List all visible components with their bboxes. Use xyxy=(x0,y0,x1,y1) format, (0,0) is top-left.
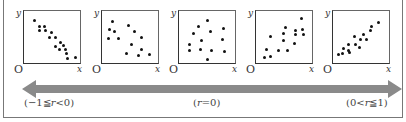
range-negative-pre: (−1≦ xyxy=(24,97,51,108)
y-axis-label: y xyxy=(16,9,21,18)
origin-label: O xyxy=(14,64,23,75)
data-point xyxy=(107,37,110,40)
origin-label: O xyxy=(92,64,101,75)
scatter-plot-weak-positive xyxy=(255,10,313,64)
data-point xyxy=(188,49,191,52)
data-point xyxy=(284,26,287,29)
data-point xyxy=(337,53,340,56)
x-axis-label: x xyxy=(309,65,314,74)
data-point xyxy=(369,29,372,32)
data-point xyxy=(370,25,373,28)
data-point xyxy=(140,48,143,51)
data-point xyxy=(348,51,351,54)
range-positive: (0<r≦1) xyxy=(346,97,388,109)
scatter-plot-no-correlation xyxy=(178,10,236,64)
data-point xyxy=(354,43,357,46)
data-point xyxy=(342,47,345,50)
data-point xyxy=(300,17,303,20)
data-point xyxy=(200,39,203,42)
range-negative-post: <0) xyxy=(55,97,74,108)
data-point xyxy=(365,38,368,41)
scatter-plot-weak-negative xyxy=(101,10,159,64)
data-point xyxy=(38,25,41,28)
x-axis-label: x xyxy=(386,65,391,74)
data-point xyxy=(108,28,111,31)
data-point xyxy=(117,37,120,40)
data-point xyxy=(48,36,51,39)
x-axis-label: x xyxy=(155,65,160,74)
double-headed-arrow-icon xyxy=(22,80,402,98)
data-point xyxy=(140,36,143,39)
data-point xyxy=(269,55,272,58)
data-point xyxy=(148,53,151,56)
origin-label: O xyxy=(323,64,332,75)
range-zero: (r=0) xyxy=(193,97,220,109)
data-point xyxy=(66,57,69,60)
data-point xyxy=(54,36,57,39)
data-point xyxy=(113,30,116,33)
range-negative: (−1≦r<0) xyxy=(24,97,74,109)
range-zero-post: =0) xyxy=(202,97,221,108)
x-axis-label: x xyxy=(77,65,82,74)
data-point xyxy=(133,30,136,33)
data-point xyxy=(358,46,361,49)
data-point xyxy=(294,29,297,32)
y-axis-label: y xyxy=(94,9,99,18)
y-axis-label: y xyxy=(171,9,176,18)
data-point xyxy=(223,50,226,53)
data-point xyxy=(44,29,47,32)
data-point xyxy=(209,30,212,33)
data-point xyxy=(301,28,304,31)
data-point xyxy=(197,25,200,28)
data-point xyxy=(294,33,297,36)
data-point xyxy=(188,43,191,46)
data-point xyxy=(341,52,344,55)
data-point xyxy=(222,27,225,30)
data-point xyxy=(286,49,289,52)
data-point xyxy=(282,39,285,42)
scatter-plot-strong-positive xyxy=(332,10,390,64)
origin-label: O xyxy=(246,64,255,75)
data-point xyxy=(377,21,380,24)
data-point xyxy=(111,20,114,23)
data-point xyxy=(347,43,350,46)
data-point xyxy=(199,48,202,51)
origin-label: O xyxy=(169,64,178,75)
data-point xyxy=(33,19,36,22)
data-point xyxy=(221,38,224,41)
data-point xyxy=(353,35,356,38)
data-point xyxy=(38,29,41,32)
data-point xyxy=(58,48,61,51)
data-point xyxy=(302,33,305,36)
data-point xyxy=(127,24,130,27)
data-point xyxy=(293,42,296,45)
scatter-plot-strong-negative xyxy=(23,10,81,64)
data-point xyxy=(74,56,77,59)
data-point xyxy=(137,54,140,57)
data-point xyxy=(43,25,46,28)
data-point xyxy=(54,45,57,48)
y-axis-label: y xyxy=(248,9,253,18)
data-point xyxy=(282,32,285,35)
data-point xyxy=(359,38,362,41)
data-point xyxy=(265,48,268,51)
data-point xyxy=(206,58,209,61)
range-positive-pre: (0< xyxy=(346,97,365,108)
data-point xyxy=(206,19,209,22)
data-point xyxy=(130,43,133,46)
data-point xyxy=(263,56,266,59)
data-point xyxy=(192,32,195,35)
data-point xyxy=(62,44,65,47)
data-point xyxy=(50,31,53,34)
data-point xyxy=(269,35,272,38)
data-point xyxy=(65,52,68,55)
data-point xyxy=(362,33,365,36)
data-point xyxy=(64,48,67,51)
x-axis-label: x xyxy=(232,65,237,74)
data-point xyxy=(277,49,280,52)
range-positive-post: ≦1) xyxy=(369,97,387,108)
data-point xyxy=(210,49,213,52)
y-axis-label: y xyxy=(325,9,330,18)
data-point xyxy=(125,52,128,55)
